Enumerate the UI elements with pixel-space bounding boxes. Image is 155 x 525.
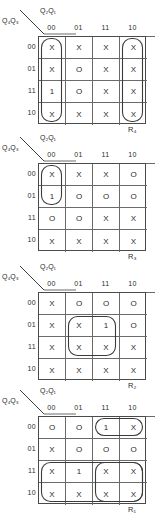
row-header: 10: [16, 482, 36, 504]
kmap-cell: X: [120, 208, 147, 230]
kmap-cell: X: [120, 37, 147, 59]
kmap-cell: O: [66, 208, 93, 230]
row-header: 00: [16, 416, 36, 438]
kmap-cell: X: [120, 417, 147, 439]
karnaugh-map-sheet: Q₂Q₁ Q₄Q₃ 00 01 11 10 00 01 11 10 XXXXXO…: [0, 0, 155, 525]
kmap-cell: X: [39, 103, 66, 125]
column-axis-label: Q₂Q₁: [40, 263, 56, 270]
kmap-cell: X: [93, 37, 120, 59]
kmap-cell: X: [120, 59, 147, 81]
kmap-cell: X: [66, 103, 93, 125]
kmap-cell: O: [120, 315, 147, 337]
row-header: 00: [16, 36, 36, 58]
kmap-cell: 1: [66, 461, 93, 483]
row-header: 00: [16, 163, 36, 185]
grid-extension-line: [146, 292, 155, 293]
kmap-cell: X: [93, 337, 120, 359]
column-headers: 00 01 11 10: [38, 280, 146, 291]
column-header: 01: [65, 404, 92, 411]
grid-extension-line: [146, 416, 155, 417]
kmap-cell: X: [66, 37, 93, 59]
column-axis-label: Q₂Q₁: [40, 134, 56, 141]
karnaugh-map-r4: Q₂Q₁ Q₄Q₃ 00 01 11 10 00 01 11 10 XXXXXO…: [0, 8, 155, 136]
kmap-cell: X: [39, 59, 66, 81]
kmap-cell: O: [39, 208, 66, 230]
output-label: R₁: [128, 505, 136, 514]
karnaugh-grid: XXXXXOXX1OXXXXXX: [38, 36, 146, 124]
column-header: 10: [119, 280, 146, 287]
column-header: 11: [92, 404, 119, 411]
grid-extension-line: [146, 36, 155, 37]
output-label: R₄: [128, 125, 136, 134]
kmap-cell: O: [39, 417, 66, 439]
kmap-cell: X: [39, 337, 66, 359]
karnaugh-grid: XXXO1OOOOOXXXXXX: [38, 163, 146, 251]
column-header: 01: [65, 24, 92, 31]
kmap-cell: X: [120, 461, 147, 483]
row-headers: 00 01 11 10: [16, 36, 36, 124]
kmap-cell: X: [39, 230, 66, 252]
kmap-cell: X: [120, 103, 147, 125]
kmap-cell: X: [120, 337, 147, 359]
column-header: 11: [92, 280, 119, 287]
karnaugh-map-r3: Q₂Q₁ Q₄Q₃ 00 01 11 10 00 01 11 10 XXXO1O…: [0, 135, 155, 263]
kmap-cell: X: [39, 483, 66, 505]
kmap-cell: X: [39, 293, 66, 315]
kmap-cell: X: [93, 81, 120, 103]
karnaugh-grid: XOOOXX1OXXXXXXXX: [38, 292, 146, 380]
kmap-cell: O: [66, 417, 93, 439]
column-header: 00: [38, 24, 65, 31]
kmap-cell: X: [120, 81, 147, 103]
row-axis-label: Q₄Q₃: [2, 144, 19, 151]
row-header: 11: [16, 460, 36, 482]
kmap-cell: X: [39, 461, 66, 483]
column-header: 01: [65, 280, 92, 287]
karnaugh-grid: OO1XXOOOX1XXXXXX: [38, 416, 146, 504]
kmap-cell: X: [120, 230, 147, 252]
output-label: R₃: [128, 252, 136, 261]
kmap-cell: X: [39, 164, 66, 186]
grid-extension-line: [146, 163, 155, 164]
row-header: 11: [16, 336, 36, 358]
kmap-cell: X: [39, 439, 66, 461]
row-header: 10: [16, 102, 36, 124]
column-header: 11: [92, 151, 119, 158]
kmap-cell: O: [93, 293, 120, 315]
kmap-cell: X: [93, 230, 120, 252]
row-axis-label: Q₄Q₃: [2, 397, 19, 404]
row-header: 01: [16, 58, 36, 80]
kmap-cell: O: [66, 59, 93, 81]
kmap-cell: X: [39, 37, 66, 59]
kmap-cell: O: [66, 186, 93, 208]
column-header: 00: [38, 151, 65, 158]
karnaugh-map-r1: Q₂Q₁ Q₄Q₃ 00 01 11 10 00 01 11 10 OO1XXO…: [0, 388, 155, 516]
kmap-cell: X: [66, 230, 93, 252]
kmap-cell: X: [93, 208, 120, 230]
row-header: 11: [16, 80, 36, 102]
row-headers: 00 01 11 10: [16, 416, 36, 504]
kmap-cell: X: [93, 483, 120, 505]
kmap-cell: O: [66, 81, 93, 103]
column-headers: 00 01 11 10: [38, 151, 146, 162]
row-header: 10: [16, 229, 36, 251]
column-header: 00: [38, 404, 65, 411]
kmap-cell: X: [39, 359, 66, 381]
kmap-cell: X: [39, 315, 66, 337]
column-headers: 00 01 11 10: [38, 404, 146, 415]
kmap-cell: X: [93, 164, 120, 186]
kmap-cell: X: [93, 103, 120, 125]
column-axis-label: Q₂Q₁: [40, 7, 56, 14]
row-header: 01: [16, 314, 36, 336]
row-header: 00: [16, 292, 36, 314]
row-header: 10: [16, 358, 36, 380]
column-header: 11: [92, 24, 119, 31]
karnaugh-map-r2: Q₂Q₁ Q₄Q₃ 00 01 11 10 00 01 11 10 XOOOXX…: [0, 264, 155, 392]
kmap-cell: O: [120, 293, 147, 315]
kmap-cell: 1: [93, 315, 120, 337]
kmap-cell: 1: [39, 186, 66, 208]
kmap-cell: X: [120, 359, 147, 381]
column-header: 10: [119, 404, 146, 411]
kmap-cell: O: [66, 439, 93, 461]
column-axis-label: Q₂Q₁: [40, 387, 56, 394]
row-axis-label: Q₄Q₃: [2, 17, 19, 24]
